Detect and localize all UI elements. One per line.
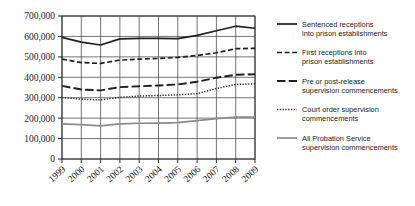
legend-label-1-line2: into prison establishments (302, 29, 388, 38)
legend-label-2-line2: prison establishments (302, 57, 374, 66)
legend-label-5-line2: supervision commencements (302, 143, 398, 152)
y-axis-tick-label: 400,000 (24, 73, 55, 83)
chart-canvas: 700,000600,000500,000400,000300,000200,0… (0, 0, 415, 206)
x-axis-tick-label: 2003 (124, 164, 145, 184)
x-axis-tick-label: 2008 (220, 164, 241, 184)
legend-label-4-line1: Court order supervision (302, 105, 379, 114)
x-axis-tick-label: 1999 (47, 164, 68, 184)
line-chart: 700,000600,000500,000400,000300,000200,0… (0, 0, 415, 206)
x-axis-tick-label: 2001 (85, 164, 106, 184)
legend-label-3-line2: supervision commencements (302, 86, 398, 95)
y-axis-tick-label: 100,000 (24, 134, 55, 144)
y-axis-tick-label: 0 (50, 154, 55, 164)
y-axis-tick-label: 300,000 (24, 93, 55, 103)
x-axis-tick-label: 2005 (162, 164, 183, 184)
legend-label-1-line1: Sentenced receptions (302, 20, 374, 29)
x-axis-tick-label: 2000 (66, 164, 87, 184)
y-axis-tick-label: 600,000 (24, 32, 55, 42)
x-axis-tick-label: 2002 (104, 164, 125, 184)
x-axis-tick-label: 2009 (240, 164, 261, 184)
legend-label-2-line1: First receptions into (302, 48, 367, 57)
x-axis: 1999200020012002200320042005200620072008… (47, 159, 261, 184)
y-axis-tick-label: 200,000 (24, 114, 55, 124)
legend-label-3-line1: Pre or post-release (302, 77, 365, 86)
x-axis-tick-label: 2006 (182, 164, 203, 184)
y-axis-tick-label: 500,000 (24, 52, 55, 62)
y-axis-tick-label: 700,000 (24, 11, 55, 21)
y-axis: 700,000600,000500,000400,000300,000200,0… (24, 11, 62, 164)
x-axis-tick-label: 2004 (143, 164, 164, 184)
gridlines (62, 16, 255, 159)
legend: Sentenced receptionsinto prison establis… (277, 20, 398, 152)
legend-label-4-line2: commencements (302, 114, 359, 123)
legend-label-5-line1: All Probation Service (302, 134, 371, 143)
x-axis-tick-label: 2007 (201, 164, 222, 184)
